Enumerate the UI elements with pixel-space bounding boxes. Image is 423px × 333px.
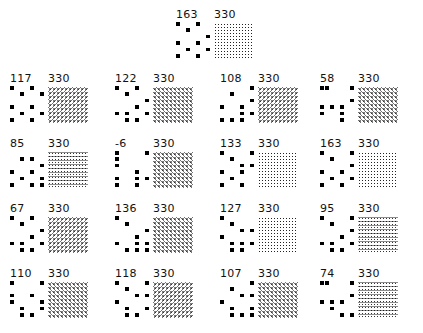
dot <box>230 242 234 246</box>
dot <box>30 235 34 239</box>
dot <box>350 242 354 246</box>
dot-glyph <box>10 86 46 122</box>
dot <box>40 177 44 181</box>
dot <box>220 300 224 304</box>
dot <box>250 112 254 116</box>
stimulus-panel: 74330 <box>320 268 420 330</box>
stimulus-panel: 127330 <box>220 203 320 265</box>
texture-patch <box>358 87 398 123</box>
dot <box>230 177 234 181</box>
dot <box>250 281 254 285</box>
score-label: 133 <box>220 138 242 150</box>
total-label: 330 <box>214 9 236 21</box>
dot <box>10 118 14 122</box>
dot <box>330 248 334 252</box>
dot-glyph <box>10 216 46 252</box>
dot <box>240 164 244 168</box>
dot <box>330 222 334 226</box>
dot <box>320 151 324 155</box>
dot <box>250 307 254 311</box>
dot <box>145 294 149 298</box>
dot <box>196 22 200 26</box>
texture-patch <box>214 23 254 59</box>
dot <box>115 216 119 220</box>
dot <box>125 248 129 252</box>
dot <box>145 177 149 181</box>
dot <box>340 105 344 109</box>
dot <box>135 294 139 298</box>
score-label: 136 <box>115 203 137 215</box>
dot <box>230 157 234 161</box>
dot <box>10 216 14 220</box>
dot <box>320 86 324 90</box>
dot <box>250 294 254 298</box>
dot <box>220 235 224 239</box>
dot <box>176 54 180 58</box>
texture-patch <box>358 217 398 253</box>
dot <box>340 235 344 239</box>
texture-patch <box>358 282 398 318</box>
dot <box>320 300 324 304</box>
texture-patch <box>153 152 193 188</box>
dot <box>330 242 334 246</box>
texture-patch <box>48 282 88 318</box>
dot <box>145 281 149 285</box>
dot <box>40 164 44 168</box>
stimulus-panel: 163330 <box>176 9 276 71</box>
total-label: 330 <box>258 138 280 150</box>
dot <box>40 242 44 246</box>
dot <box>220 216 224 220</box>
dot <box>115 281 119 285</box>
stimulus-panel: 58330 <box>320 73 420 135</box>
dot <box>125 112 129 116</box>
dot <box>115 300 119 304</box>
dot-glyph <box>320 216 356 252</box>
texture-patch <box>153 282 193 318</box>
dot <box>350 313 354 317</box>
dot <box>125 287 129 291</box>
score-label: 107 <box>220 268 242 280</box>
dot <box>240 170 244 174</box>
score-label: -6 <box>115 138 126 150</box>
dot <box>135 242 139 246</box>
dot <box>320 112 324 116</box>
dot <box>30 118 34 122</box>
dot <box>40 307 44 311</box>
dot <box>20 222 24 226</box>
texture-patch <box>258 217 298 253</box>
stimulus-panel: 122330 <box>115 73 215 135</box>
dot <box>220 118 224 122</box>
score-label: 85 <box>10 138 24 150</box>
texture-patch <box>258 152 298 188</box>
dot <box>10 242 14 246</box>
dot <box>40 300 44 304</box>
dot <box>220 170 224 174</box>
score-label: 117 <box>10 73 32 85</box>
dot <box>30 248 34 252</box>
dot <box>350 86 354 90</box>
dot <box>176 41 180 45</box>
dot-glyph <box>220 86 256 122</box>
dot <box>350 229 354 233</box>
score-label: 163 <box>176 9 198 21</box>
dot <box>350 164 354 168</box>
dot <box>135 86 139 90</box>
dot <box>30 313 34 317</box>
dot <box>325 281 329 285</box>
dot <box>250 242 254 246</box>
dot <box>240 248 244 252</box>
total-label: 330 <box>258 203 280 215</box>
dot <box>240 105 244 109</box>
stimulus-panel: 107330 <box>220 268 320 330</box>
dot <box>20 112 24 116</box>
dot <box>30 86 34 90</box>
dot-glyph <box>320 86 356 122</box>
dot <box>40 229 44 233</box>
stimulus-panel: 117330 <box>10 73 110 135</box>
dot <box>125 222 129 226</box>
total-label: 330 <box>358 138 380 150</box>
dot <box>40 183 44 187</box>
score-label: 127 <box>220 203 242 215</box>
dot <box>30 294 34 298</box>
dot <box>220 151 224 155</box>
